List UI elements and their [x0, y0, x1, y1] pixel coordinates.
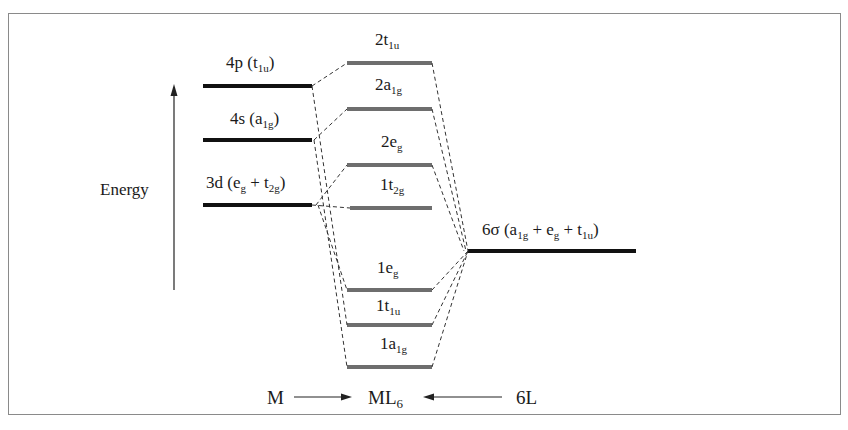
- mo-diagram: [0, 0, 848, 430]
- footer-ligand: 6L: [516, 388, 537, 407]
- mo-label-2a1g: 2a1g: [375, 76, 402, 93]
- mo-label-1eg: 1eg: [377, 259, 399, 276]
- mo-label-1a1g: 1a1g: [380, 335, 407, 352]
- mo-label-1t1u: 1t1u: [376, 297, 400, 314]
- metal-label-4p: 4p (t1u): [226, 54, 274, 71]
- arrow-right-icon: [341, 394, 352, 401]
- mo-label-2t1u: 2t1u: [375, 31, 399, 48]
- footer-complex: ML6: [368, 388, 403, 407]
- metal-label-4s: 4s (a1g): [230, 110, 279, 127]
- metal-label-3d: 3d (eg + t2g): [206, 174, 285, 191]
- ligand-label: 6σ (a1g + eg + t1u): [482, 221, 599, 238]
- mo-levels: [347, 63, 432, 367]
- mo-label-1t2g: 1t2g: [380, 176, 404, 193]
- footer-metal: M: [267, 388, 284, 407]
- energy-label: Energy: [100, 181, 149, 198]
- mo-label-2eg: 2eg: [381, 133, 403, 150]
- energy-arrow-icon: [171, 84, 178, 290]
- arrow-left-icon: [423, 394, 434, 401]
